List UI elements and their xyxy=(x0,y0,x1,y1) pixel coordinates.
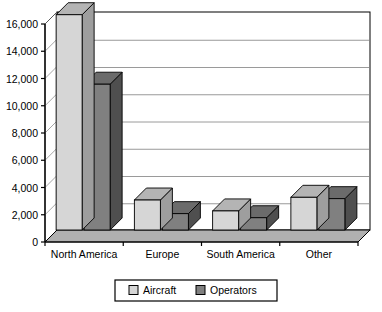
x-axis-category-labels: North AmericaEuropeSouth AmericaOther xyxy=(51,248,333,260)
legend-item-aircraft[interactable]: Aircraft xyxy=(129,284,176,296)
bar-aircraft-other[interactable] xyxy=(291,185,329,230)
bar-aircraft-europe[interactable] xyxy=(134,188,172,230)
y-tick-label: 0 xyxy=(32,236,38,248)
plot-floor xyxy=(45,230,370,242)
y-tick-label: 12,000 xyxy=(6,73,38,85)
y-tick-label: 4,000 xyxy=(12,182,38,194)
y-tick-label: 14,000 xyxy=(6,45,38,57)
bar-chart-3d: 16,000 14,000 12,000 10,000 8,000 6,000 … xyxy=(0,0,382,312)
legend-label-aircraft: Aircraft xyxy=(143,284,176,296)
legend-item-operators[interactable]: Operators xyxy=(196,284,257,296)
x-category-label: Europe xyxy=(145,248,179,260)
legend-swatch-operators xyxy=(196,286,205,295)
legend-label-operators: Operators xyxy=(210,284,257,296)
legend-swatch-aircraft xyxy=(129,286,138,295)
y-axis-tick-labels: 16,000 14,000 12,000 10,000 8,000 6,000 … xyxy=(6,18,38,248)
y-tick-label: 8,000 xyxy=(12,127,38,139)
y-tick-label: 16,000 xyxy=(6,18,38,30)
x-category-label: Other xyxy=(306,248,333,260)
x-category-label: North America xyxy=(51,248,118,260)
legend: Aircraft Operators xyxy=(115,280,277,301)
y-tick-label: 6,000 xyxy=(12,154,38,166)
bar-aircraft-north-america[interactable] xyxy=(56,3,94,230)
y-tick-label: 10,000 xyxy=(6,100,38,112)
x-axis-ticks xyxy=(45,242,358,246)
x-category-label: South America xyxy=(206,248,274,260)
chart-container: 16,000 14,000 12,000 10,000 8,000 6,000 … xyxy=(0,0,382,312)
y-tick-label: 2,000 xyxy=(12,209,38,221)
